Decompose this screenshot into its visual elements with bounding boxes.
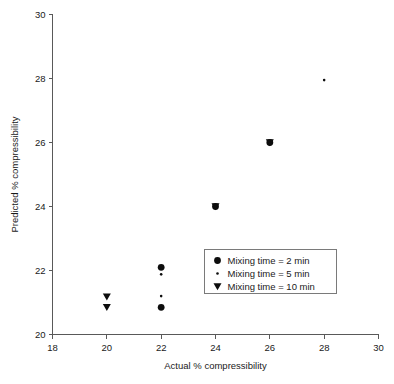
- legend-entry-label: Mixing time = 5 min: [228, 268, 310, 279]
- x-tick-label: 20: [102, 342, 113, 353]
- y-tick-label: 22: [35, 265, 46, 276]
- y-tick-label: 20: [35, 329, 46, 340]
- data-point-marker: [158, 304, 165, 311]
- chart-legend: Mixing time = 2 minMixing time = 5 minMi…: [205, 250, 337, 294]
- x-tick-label: 28: [319, 342, 330, 353]
- y-tick-label: 28: [35, 73, 46, 84]
- x-tick-label: 22: [156, 342, 167, 353]
- x-tick-label: 24: [210, 342, 221, 353]
- data-point-marker: [103, 293, 111, 300]
- y-tick-label: 26: [35, 137, 46, 148]
- scatter-plot-figure: 20222426283018202224262830Actual % compr…: [0, 0, 394, 384]
- x-tick-label: 26: [265, 342, 276, 353]
- x-axis-title: Actual % compressibility: [164, 360, 267, 371]
- x-tick-label: 30: [373, 342, 384, 353]
- data-point-marker: [158, 264, 165, 271]
- legend-marker-small-dot: [216, 272, 219, 275]
- data-point-marker: [323, 79, 326, 82]
- legend-marker-filled-circle: [214, 257, 221, 264]
- y-axis-title: Predicted % compressibility: [9, 116, 20, 232]
- data-point-marker: [103, 304, 111, 311]
- y-tick-label: 30: [35, 9, 46, 20]
- legend-entry-label: Mixing time = 2 min: [228, 255, 310, 266]
- y-tick-label: 24: [35, 201, 46, 212]
- data-point-marker: [160, 273, 163, 276]
- plot-canvas: 20222426283018202224262830Actual % compr…: [0, 0, 394, 384]
- legend-entry-label: Mixing time = 10 min: [228, 281, 315, 292]
- x-tick-label: 18: [47, 342, 58, 353]
- data-point-marker: [160, 295, 163, 298]
